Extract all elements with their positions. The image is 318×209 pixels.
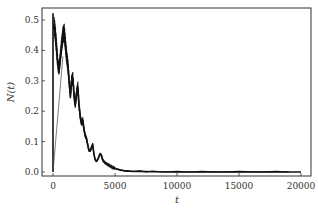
line-chart: 0.00.10.20.30.40.5 05000100001500020000 … [0, 0, 318, 209]
plot-frame [42, 8, 311, 176]
x-tick-label: 0 [50, 181, 56, 191]
x-axis-label: t [175, 194, 180, 205]
y-tick-label: 0.2 [25, 106, 39, 116]
y-tick-label: 0.5 [25, 15, 40, 25]
y-axis-label: N(t) [5, 82, 16, 104]
initial-rise-line [53, 57, 63, 173]
y-tick-label: 0.4 [25, 45, 40, 55]
data-line [53, 14, 301, 172]
y-tick-label: 0.1 [25, 137, 39, 147]
x-tick-label: 20000 [287, 181, 316, 191]
x-tick-label: 15000 [225, 181, 254, 191]
x-tick-label: 10000 [163, 181, 192, 191]
y-tick-label: 0.3 [25, 76, 40, 86]
y-tick-label: 0.0 [25, 167, 40, 177]
plot-area [53, 14, 301, 172]
x-tick-label: 5000 [104, 181, 127, 191]
